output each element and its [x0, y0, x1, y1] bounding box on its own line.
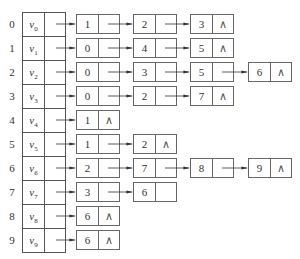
arrows-layer — [0, 0, 300, 259]
adjacency-list-diagram: 0v0123∧1v1045∧2v20356∧3v3027∧4v41∧5v512∧… — [0, 0, 300, 259]
